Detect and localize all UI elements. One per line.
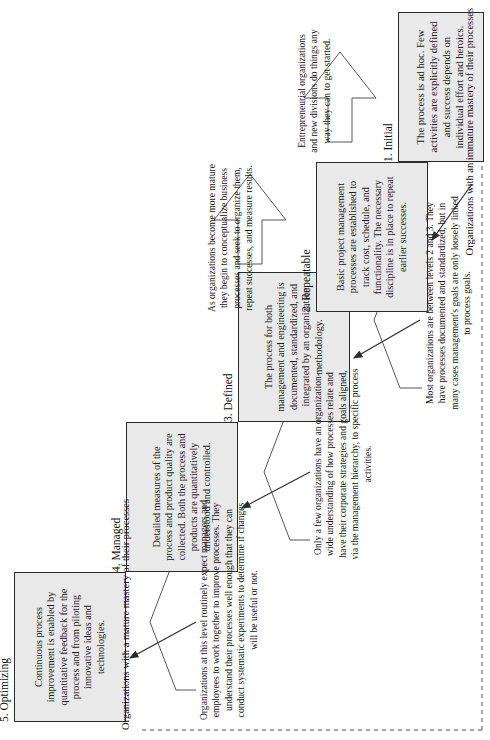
arrow-note3-to-box3 bbox=[354, 320, 420, 358]
diagram-canvas: Continuous process improvement is enable… bbox=[0, 0, 490, 740]
level2-label: 2. Repeatable bbox=[300, 249, 312, 312]
level-box-repeatable: Basic project management processes are e… bbox=[316, 162, 428, 312]
edge-label-immature: Organizations with an immature mastery o… bbox=[464, 8, 475, 255]
bracket-note4 bbox=[264, 404, 310, 540]
level1-body: The process is ad hoc. Few activities ar… bbox=[415, 20, 467, 154]
level3-label: 3. Defined bbox=[222, 373, 234, 422]
bracket-note5 bbox=[150, 554, 196, 690]
level5-label: 5. Optimizing bbox=[0, 658, 10, 722]
level1-label: 1. Initial bbox=[382, 123, 394, 162]
note-level2: As organizations become more mature they… bbox=[206, 164, 256, 312]
edge-label-mature: Organizations with a mature mastery of t… bbox=[120, 499, 131, 730]
arrow-note5-to-box5 bbox=[130, 622, 196, 658]
note-level5: Organizations at this level routinely ex… bbox=[198, 496, 260, 724]
level2-body: Basic project management processes are e… bbox=[335, 170, 410, 304]
level-box-optimizing: Continuous process improvement is enable… bbox=[14, 572, 126, 722]
level5-body: Continuous process improvement is enable… bbox=[33, 580, 108, 714]
note-level4: Only a few organizations have an organiz… bbox=[312, 364, 374, 564]
note-level1: Entrepreneurial organizations and new di… bbox=[296, 28, 333, 154]
